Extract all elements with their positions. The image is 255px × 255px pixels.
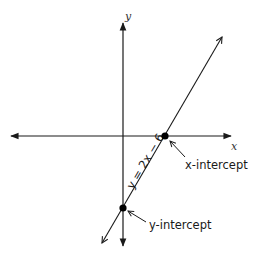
y-intercept-callout-arrow xyxy=(128,211,146,222)
equation-label: y = 2x − 6 xyxy=(124,131,167,192)
y-axis-label: y xyxy=(124,10,132,23)
x-intercept-point xyxy=(161,132,168,139)
x-intercept-label: x-intercept xyxy=(185,158,248,172)
graph-canvas: y x y = 2x − 6 x-intercept y-intercept xyxy=(0,0,255,255)
y-intercept-label: y-intercept xyxy=(149,218,212,232)
x-axis-label: x xyxy=(231,140,238,153)
y-intercept-point xyxy=(119,204,126,211)
x-intercept-callout-arrow xyxy=(170,141,185,157)
graph-diagram: y x y = 2x − 6 x-intercept y-intercept xyxy=(0,0,255,255)
